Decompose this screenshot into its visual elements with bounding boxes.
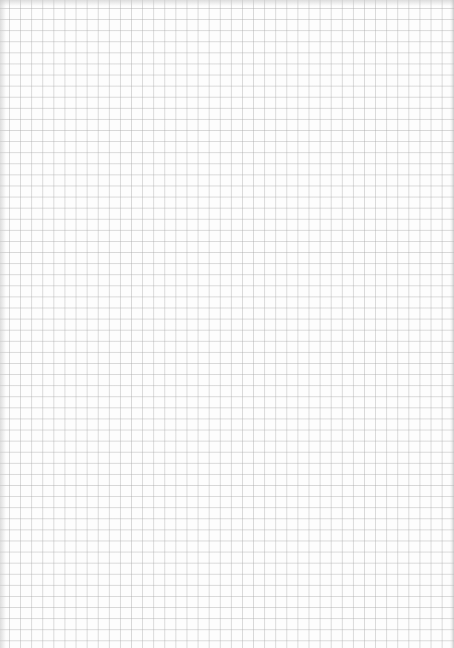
- grid-paper-sheet: [0, 0, 454, 648]
- sheet-right-edge-shadow: [450, 0, 454, 648]
- sheet-left-edge-shadow: [0, 0, 6, 648]
- sheet-top-edge-shadow: [0, 0, 454, 6]
